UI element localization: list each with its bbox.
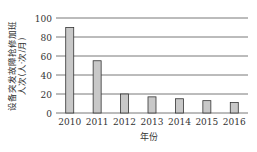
bar-2011 [93,61,101,113]
x-tick-label: 2013 [141,117,164,127]
y-tick-label: 60 [41,52,53,62]
x-tick-label: 2016 [223,117,246,127]
x-tick-label: 2011 [86,117,109,127]
y-tick-label: 40 [41,71,53,81]
bar-2016 [230,103,238,113]
bar-2015 [203,101,211,113]
x-tick-label: 2014 [168,117,191,127]
x-tick-label: 2010 [58,117,81,127]
bar-2014 [175,99,183,113]
x-tick-label: 2015 [195,117,218,127]
bar-chart: 0204060801002010201120122013201420152016 [0,0,257,152]
y-tick-label: 20 [41,90,53,100]
y-tick-label: 0 [46,109,52,119]
bar-2013 [148,97,156,113]
x-axis-label: 年份 [140,130,158,143]
bar-2010 [66,28,74,114]
bar-2012 [121,94,129,113]
x-tick-label: 2012 [113,117,136,127]
y-tick-label: 80 [41,33,53,43]
y-tick-label: 100 [35,14,52,24]
